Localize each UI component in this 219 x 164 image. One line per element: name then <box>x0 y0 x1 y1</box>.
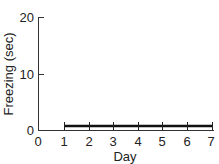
y-axis-label: Freezing (sec) <box>1 32 16 115</box>
y-tick-label-10: 10 <box>20 67 34 82</box>
x-tick-label-6: 6 <box>183 134 190 149</box>
x-tick-label-2: 2 <box>85 134 92 149</box>
x-axis-label: Day <box>113 149 137 164</box>
x-tick-label-3: 3 <box>109 134 116 149</box>
x-tick-label-7: 7 <box>207 134 214 149</box>
y-tick-label-0: 0 <box>27 123 34 138</box>
x-tick-label-0: 0 <box>34 134 41 149</box>
x-tick-label-1: 1 <box>60 134 67 149</box>
y-tick-label-20: 20 <box>20 10 34 25</box>
x-tick-label-4: 4 <box>134 134 141 149</box>
freezing-chart: 20 10 0 0 1 2 3 4 5 6 7 Day Freezing (se… <box>0 0 219 164</box>
x-tick-label-5: 5 <box>158 134 165 149</box>
